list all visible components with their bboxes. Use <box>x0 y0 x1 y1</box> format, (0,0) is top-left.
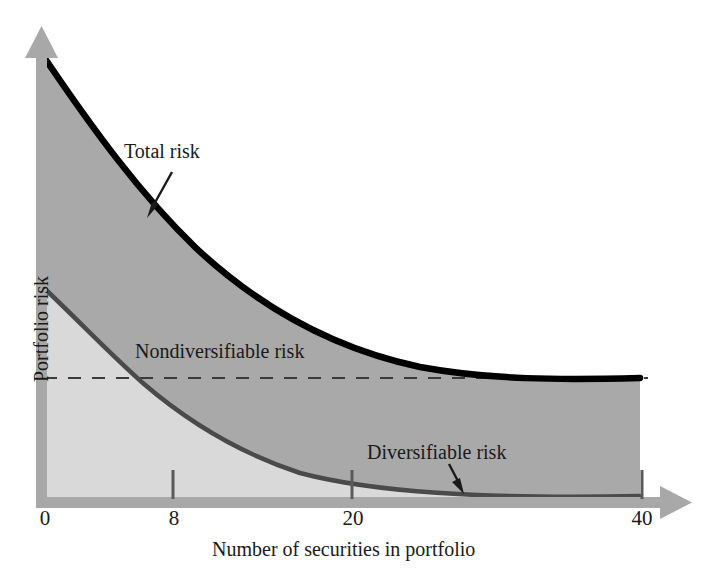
y-axis-arrowhead <box>25 26 58 58</box>
x-tick-label-40: 40 <box>625 506 659 531</box>
x-axis-title: Number of securities in portfolio <box>212 538 475 561</box>
portfolio-risk-diagram: Portfolio risk Number of securities in p… <box>0 0 712 586</box>
chart-canvas <box>0 0 712 586</box>
nondiversifiable-risk-label: Nondiversifiable risk <box>135 340 304 363</box>
diversifiable-risk-label: Diversifiable risk <box>367 441 506 464</box>
x-tick-label-8: 8 <box>163 506 185 531</box>
y-axis-title: Portfolio risk <box>30 276 53 382</box>
total-risk-label: Total risk <box>124 140 200 163</box>
x-axis-arrowhead <box>660 486 692 519</box>
x-tick-label-0: 0 <box>34 506 56 531</box>
x-tick-label-20: 20 <box>336 506 370 531</box>
